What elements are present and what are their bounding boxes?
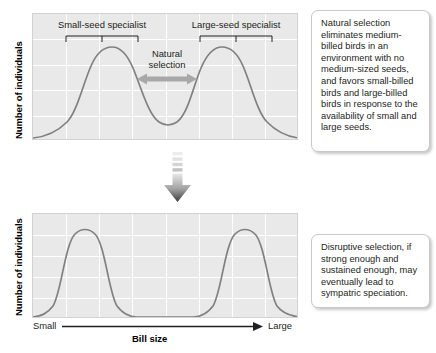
bottom-panel-y-axis-label: Number of individuals [13,218,24,316]
x-axis-right-arrow-icon [62,322,263,331]
natural-selection-label-line1: Natural [141,48,193,59]
x-axis-start-label: Small [33,320,56,331]
large-seed-specialist-bracket [199,33,273,43]
bottom-panel-distribution-curve [33,214,298,318]
top-panel-y-axis-label: Number of individuals [13,41,24,139]
x-axis-label: Bill size [132,333,167,344]
bottom-panel-plot [32,213,298,318]
large-seed-specialist-label: Large-seed specialist [190,19,282,30]
double-headed-horizontal-arrow-icon [137,72,197,86]
x-axis-end-label: Large [268,320,292,331]
natural-selection-label-line2: selection [141,59,193,70]
callout-top-text: Natural selection eliminates medium-bill… [311,10,430,152]
downward-gradient-arrow-icon [163,152,192,204]
small-seed-specialist-label: Small-seed specialist [56,19,148,30]
small-seed-specialist-bracket [65,33,139,43]
callout-bottom-text: Disruptive selection, if strong enough a… [311,234,430,308]
